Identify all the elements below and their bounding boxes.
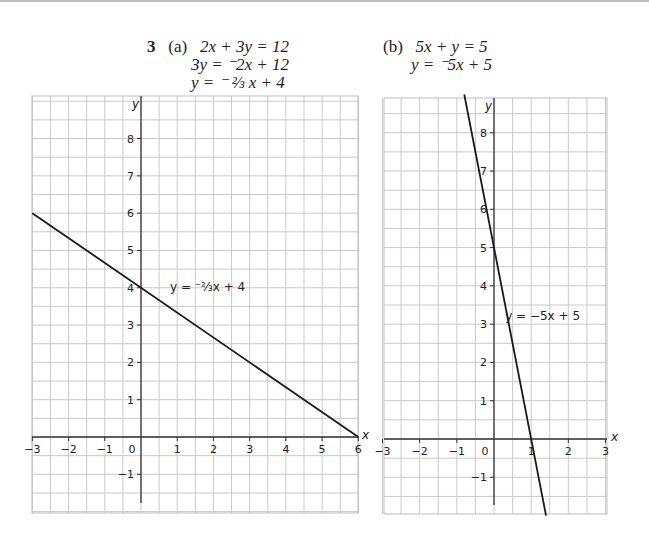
x-tick-label: −2	[412, 445, 428, 458]
x-tick-label: 5	[319, 443, 326, 456]
y-tick-label: 5	[127, 244, 134, 257]
y-tick-label: 4	[127, 282, 134, 295]
graph-a: −3−2−10123456−112345678xyy = ⁻⅔x + 4	[24, 96, 370, 513]
y-tick-label: 7	[127, 170, 134, 183]
x-tick-label: 2	[565, 445, 572, 458]
y-axis-label: y	[131, 97, 140, 111]
y-tick-label: 8	[480, 127, 487, 140]
x-tick-label: 1	[174, 443, 181, 456]
x-tick-label: 6	[355, 443, 362, 456]
graph-b: −3−2−10123−112345678xyy = −5x + 5	[374, 94, 619, 515]
y-tick-label: 2	[480, 356, 487, 369]
x-tick-label: −1	[449, 445, 465, 458]
x-tick-label: 3	[602, 445, 609, 458]
x-tick-label: −1	[97, 443, 113, 456]
y-tick-label: 3	[480, 318, 487, 331]
x-tick-label: 3	[246, 443, 253, 456]
x-axis-label: x	[361, 428, 370, 442]
y-tick-label: 1	[480, 395, 487, 408]
y-tick-label: 3	[127, 319, 134, 332]
x-tick-label: 0	[482, 445, 489, 458]
y-tick-label: 6	[127, 207, 134, 220]
y-tick-label: 8	[127, 133, 134, 146]
x-tick-label: 2	[210, 443, 217, 456]
x-tick-label: 0	[129, 443, 136, 456]
x-axis-label: x	[610, 430, 619, 444]
graphs-canvas: −3−2−10123456−112345678xyy = ⁻⅔x + 4−3−2…	[0, 0, 649, 544]
y-tick-label: 5	[480, 242, 487, 255]
x-tick-label: −3	[24, 443, 40, 456]
y-axis-label: y	[484, 99, 493, 113]
y-tick-label: −1	[118, 468, 134, 481]
y-tick-label: 4	[480, 280, 487, 293]
y-tick-label: 7	[480, 165, 487, 178]
line-equation-label: y = −5x + 5	[505, 309, 580, 323]
x-tick-label: −3	[374, 445, 390, 458]
x-tick-label: 4	[282, 443, 289, 456]
y-tick-label: 1	[127, 394, 134, 407]
line-equation-label: y = ⁻⅔x + 4	[170, 280, 245, 294]
x-tick-label: −2	[60, 443, 76, 456]
y-tick-label: −1	[471, 471, 487, 484]
y-tick-label: 2	[127, 356, 134, 369]
